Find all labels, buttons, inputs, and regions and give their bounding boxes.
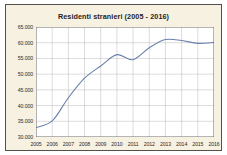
- chart-panel: Residenti stranieri (2005 - 2016) 30.000…: [5, 4, 222, 151]
- y-axis-tick-label: 60.000: [11, 40, 33, 46]
- x-axis-tick-label: 2011: [128, 141, 139, 147]
- y-axis-tick-label: 30.000: [11, 134, 33, 140]
- x-axis-tick-label: 2009: [95, 141, 106, 147]
- x-axis-tick-label: 2016: [208, 141, 219, 147]
- x-axis-tick-label: 2014: [176, 141, 187, 147]
- x-axis-tick-label: 2006: [47, 141, 58, 147]
- x-axis-tick-label: 2005: [30, 141, 41, 147]
- chart-figure: Residenti stranieri (2005 - 2016) 30.000…: [0, 0, 227, 155]
- plot-area: [36, 27, 214, 137]
- x-axis-tick-label: 2008: [79, 141, 90, 147]
- x-axis-tick-labels: 2005200620072008200920102011201220132014…: [36, 141, 214, 151]
- y-axis-tick-label: 35.000: [11, 118, 33, 124]
- line-chart-svg: [36, 27, 214, 137]
- x-axis-tick-label: 2013: [160, 141, 171, 147]
- y-axis-tick-labels: 30.00035.00040.00045.00050.00055.00060.0…: [11, 27, 33, 137]
- y-axis-tick-label: 50.000: [11, 71, 33, 77]
- x-axis-tick-label: 2010: [111, 141, 122, 147]
- x-axis-tick-label: 2015: [192, 141, 203, 147]
- y-axis-tick-label: 40.000: [11, 103, 33, 109]
- plot-background: [36, 27, 214, 137]
- x-axis-tick-label: 2012: [144, 141, 155, 147]
- chart-title: Residenti stranieri (2005 - 2016): [6, 12, 221, 21]
- y-axis-tick-label: 65.000: [11, 24, 33, 30]
- y-axis-tick-label: 55.000: [11, 55, 33, 61]
- y-axis-tick-label: 45.000: [11, 87, 33, 93]
- x-axis-tick-label: 2007: [63, 141, 74, 147]
